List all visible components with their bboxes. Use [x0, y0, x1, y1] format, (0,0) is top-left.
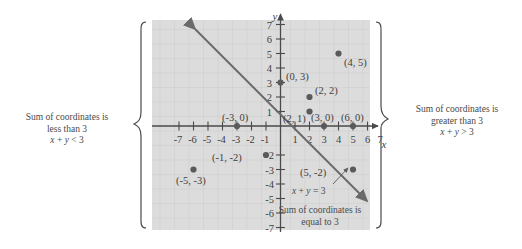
x-tick-label: -1: [261, 134, 270, 145]
point-label-3-0: (3, 0): [311, 112, 334, 124]
point-label--1--2: (-1, -2): [212, 152, 242, 164]
point-label--3-0: (-3, 0): [222, 112, 249, 124]
x-tick-label: 6: [365, 134, 370, 145]
y-tick-label: -4: [265, 179, 274, 190]
x-tick-label: 1: [292, 134, 297, 145]
point-label-4-5: (4, 5): [344, 57, 367, 69]
y-axis-label: y: [272, 10, 278, 22]
y-tick-label: 4: [267, 63, 273, 74]
annotation-greater-than-line2: greater than 3: [396, 116, 518, 128]
point-label-0-3: (0, 3): [286, 71, 309, 83]
y-tick-label: 1: [267, 107, 272, 118]
y-tick-label: 7: [267, 20, 272, 31]
point-label--5--3: (-5, -3): [176, 175, 206, 187]
figure-root: -7 -6 -5 -4 -3 -2 -1 1 2 3 4 5 6 7 7 6 5…: [0, 0, 522, 249]
point-0-3: [277, 79, 283, 85]
point-2-2: [306, 94, 312, 100]
x-tick-label: 3: [321, 134, 326, 145]
x-tick-label: -4: [217, 134, 226, 145]
x-tick-label: -2: [246, 134, 255, 145]
y-tick-label: 5: [267, 49, 272, 60]
x-tick-label: 5: [350, 134, 355, 145]
annotation-less-than-equation: x + y < 3: [6, 135, 128, 147]
annotation-equal-to: Sum of coordinates is equal to 3: [258, 205, 382, 228]
point-4-5: [335, 50, 341, 56]
right-upper-brace: [376, 22, 388, 128]
y-tick-label: 3: [267, 78, 272, 89]
y-tick-label: -5: [265, 194, 274, 205]
x-tick-label: -7: [174, 134, 183, 145]
annotation-less-than: Sum of coordinates is less than 3 x + y …: [6, 112, 128, 147]
annotation-less-than-line2: less than 3: [6, 124, 128, 136]
point--5--3: [190, 166, 196, 172]
point-label-2-2: (2, 2): [315, 85, 338, 97]
y-tick-label: -3: [265, 165, 274, 176]
eq-rel: > 3: [459, 127, 474, 137]
x-tick-label: -3: [232, 134, 241, 145]
x-tick-label: -5: [203, 134, 212, 145]
eq-op: +: [445, 127, 455, 137]
point-label-6-0: (6, 0): [341, 112, 364, 124]
y-tick-label: 6: [267, 34, 272, 45]
point-label-5--2: (5, -2): [300, 167, 327, 179]
x-tick-label: -6: [188, 134, 197, 145]
annotation-greater-than: Sum of coordinates is greater than 3 x +…: [396, 104, 518, 139]
x-tick-label: 4: [336, 134, 342, 145]
line-equation-label: x + y = 3: [292, 186, 325, 196]
annotation-less-than-line1: Sum of coordinates is: [6, 112, 128, 124]
point-5--2: [350, 166, 356, 172]
eq-op: +: [55, 135, 65, 145]
point-label-2-1: (2, 1): [283, 113, 306, 125]
line-eq-op: +: [296, 186, 306, 196]
point--3-0: [234, 123, 240, 129]
annotation-equal-to-line1: Sum of coordinates is: [258, 205, 382, 217]
annotation-greater-than-equation: x + y > 3: [396, 127, 518, 139]
point-3-0: [321, 123, 327, 129]
line-eq-rel: = 3: [311, 186, 326, 196]
point-6-0: [350, 123, 356, 129]
annotation-greater-than-line1: Sum of coordinates is: [396, 104, 518, 116]
eq-rel: < 3: [69, 135, 84, 145]
left-brace: [134, 22, 146, 228]
annotation-equal-to-line2: equal to 3: [258, 217, 382, 229]
point--1--2: [263, 152, 269, 158]
